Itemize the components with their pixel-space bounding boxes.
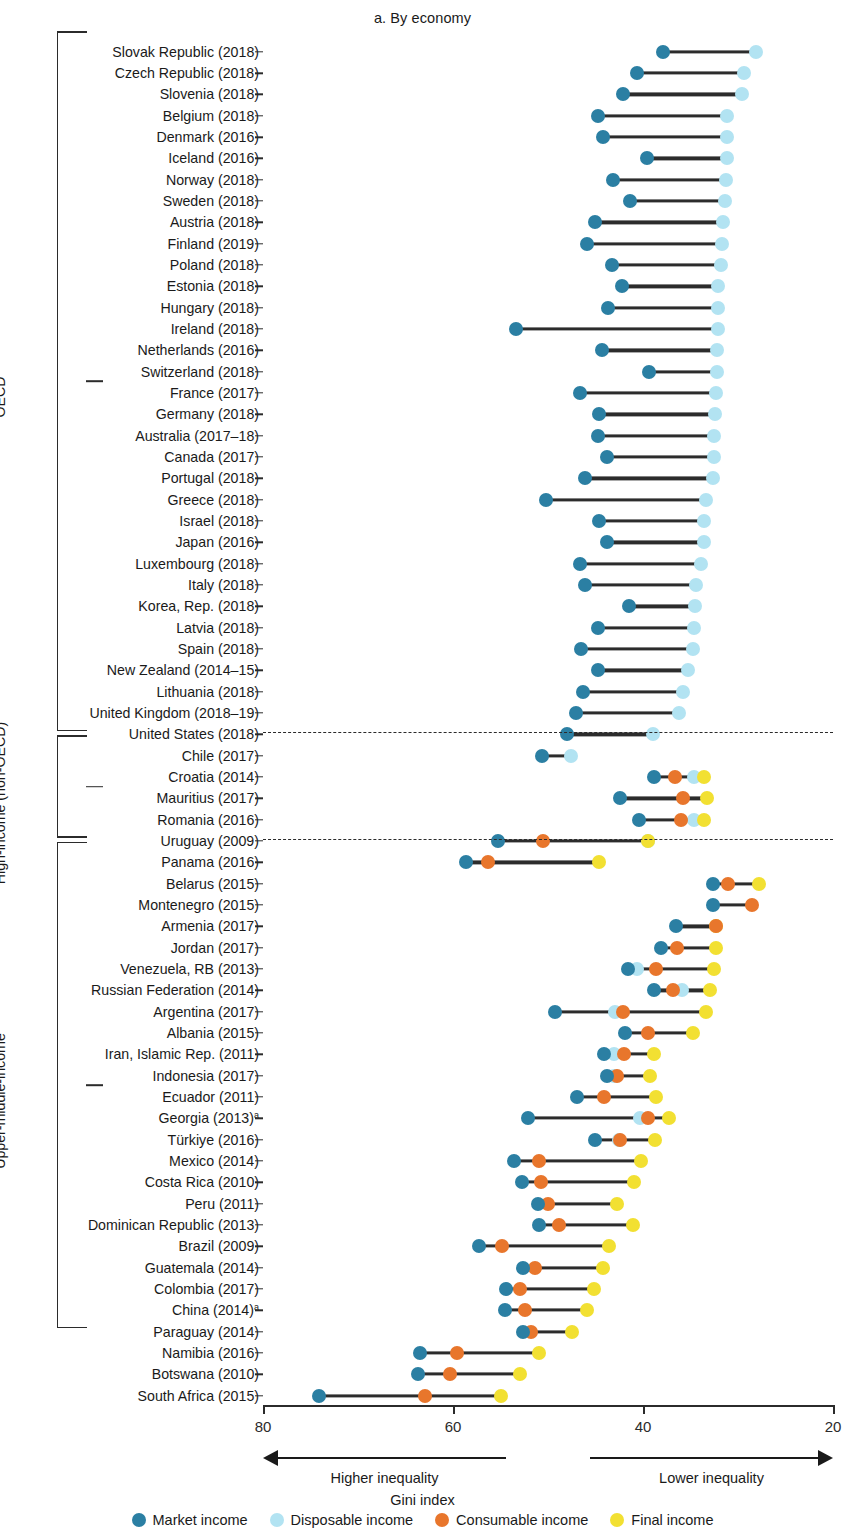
- data-point-consumable: [481, 855, 495, 869]
- row-label: Korea, Rep. (2018): [138, 599, 259, 613]
- data-point-market: [669, 919, 683, 933]
- row-tick: [255, 734, 263, 735]
- data-point-consumable: [676, 791, 690, 805]
- legend-item-disposable[interactable]: Disposable income: [270, 1512, 414, 1528]
- data-point-final: [513, 1367, 527, 1381]
- connector-line: [598, 114, 726, 117]
- group-bracket-stem: [86, 1084, 103, 1086]
- data-point-final: [700, 791, 714, 805]
- data-point-consumable: [532, 1154, 546, 1168]
- connector-line: [622, 285, 718, 288]
- chart-row: United Kingdom (2018–19): [0, 701, 845, 725]
- data-point-market: [573, 557, 587, 571]
- data-point-market: [573, 386, 587, 400]
- chart-row: Mauritius (2017): [0, 787, 845, 811]
- connector-line: [319, 1394, 500, 1397]
- row-label: Japan (2016): [175, 535, 259, 549]
- chart-row: China (2014)a: [0, 1298, 845, 1322]
- row-tick: [255, 904, 263, 905]
- chart-row: Uruguay (2009): [0, 829, 845, 853]
- data-point-final: [662, 1111, 676, 1125]
- row-label: Indonesia (2017): [153, 1069, 259, 1083]
- data-point-disposable: [708, 407, 722, 421]
- data-point-disposable: [697, 535, 711, 549]
- group-bracket: [57, 31, 87, 731]
- group-bracket: [57, 735, 87, 838]
- connector-line: [603, 136, 727, 139]
- data-point-consumable: [641, 1026, 655, 1040]
- row-tick: [255, 1224, 263, 1225]
- row-tick: [255, 990, 263, 991]
- legend-item-consumable[interactable]: Consumable income: [435, 1512, 588, 1528]
- data-point-consumable: [552, 1218, 566, 1232]
- data-point-market: [616, 87, 630, 101]
- row-tick: [255, 115, 263, 116]
- row-label: Slovenia (2018): [160, 87, 259, 101]
- panel-title: a. By economy: [0, 10, 845, 26]
- data-point-market: [413, 1346, 427, 1360]
- connector-line: [546, 498, 706, 501]
- data-point-consumable: [709, 919, 723, 933]
- row-tick: [255, 94, 263, 95]
- data-point-market: [498, 1303, 512, 1317]
- data-point-market: [618, 1026, 632, 1040]
- data-point-market: [606, 173, 620, 187]
- data-point-market: [623, 194, 637, 208]
- row-label: Sweden (2018): [163, 194, 259, 208]
- data-point-disposable: [686, 642, 700, 656]
- row-label: Canada (2017): [164, 450, 259, 464]
- row-label: Namibia (2016): [162, 1346, 259, 1360]
- data-point-disposable: [711, 322, 725, 336]
- row-tick: [255, 776, 263, 777]
- row-label: Norway (2018): [166, 173, 259, 187]
- connector-line: [498, 839, 648, 842]
- data-point-disposable: [672, 706, 686, 720]
- chart-row: Ireland (2018): [0, 317, 845, 341]
- data-point-market: [509, 322, 523, 336]
- chart-row: Denmark (2016): [0, 125, 845, 149]
- connector-line: [623, 93, 742, 96]
- chart-row: Jordan (2017): [0, 936, 845, 960]
- row-tick: [255, 456, 263, 457]
- row-tick: [255, 648, 263, 649]
- row-tick: [255, 819, 263, 820]
- data-point-market: [615, 279, 629, 293]
- row-label: Brazil (2009): [179, 1239, 259, 1253]
- data-point-final: [686, 1026, 700, 1040]
- data-point-disposable: [687, 621, 701, 635]
- connector-line: [649, 370, 717, 373]
- data-point-consumable: [649, 962, 663, 976]
- row-label: Guatemala (2014): [145, 1260, 259, 1274]
- chart-row: Namibia (2016): [0, 1341, 845, 1365]
- connector-line: [567, 733, 653, 736]
- data-point-disposable: [737, 66, 751, 80]
- data-point-market: [411, 1367, 425, 1381]
- legend-item-final[interactable]: Final income: [610, 1512, 713, 1528]
- legend-item-market[interactable]: Market income: [132, 1512, 248, 1528]
- connector-line: [612, 264, 721, 267]
- row-label: Italy (2018): [188, 578, 259, 592]
- row-label: Switzerland (2018): [141, 365, 259, 379]
- data-point-market: [640, 151, 654, 165]
- data-point-market: [580, 237, 594, 251]
- data-point-market: [600, 450, 614, 464]
- connector-line: [629, 605, 696, 608]
- data-point-disposable: [681, 663, 695, 677]
- data-point-market: [570, 1090, 584, 1104]
- data-point-market: [516, 1325, 530, 1339]
- data-point-disposable: [711, 279, 725, 293]
- data-point-disposable: [564, 749, 578, 763]
- row-tick: [255, 1331, 263, 1332]
- legend-label: Final income: [631, 1512, 713, 1528]
- chart-row: Georgia (2013)a: [0, 1107, 845, 1131]
- data-point-disposable: [694, 557, 708, 571]
- row-tick: [255, 51, 263, 52]
- legend-label: Consumable income: [456, 1512, 588, 1528]
- data-point-market: [706, 898, 720, 912]
- row-tick: [255, 840, 263, 841]
- row-tick: [255, 1374, 263, 1375]
- row-label: Finland (2019): [168, 237, 260, 251]
- connector-line: [555, 1010, 706, 1013]
- connector-line: [576, 711, 680, 714]
- x-tick: [643, 1405, 645, 1414]
